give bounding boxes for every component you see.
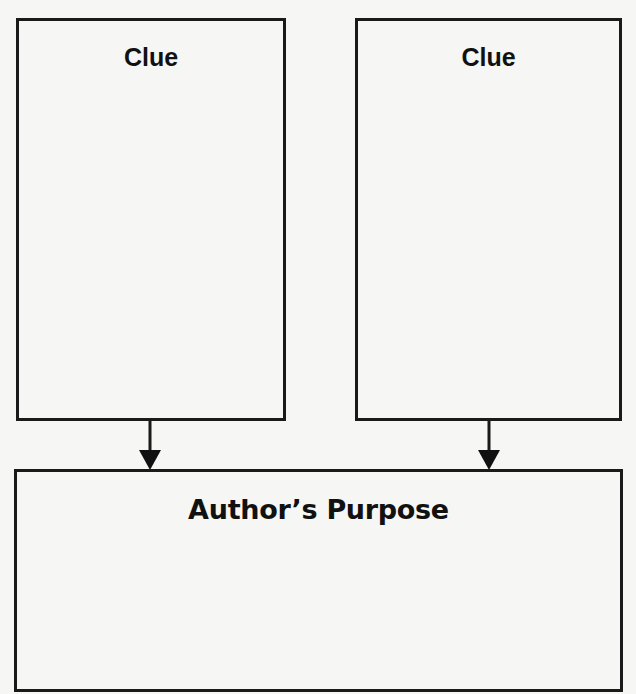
clue-box-1-content[interactable] xyxy=(31,91,271,406)
clue-box-2-title: Clue xyxy=(358,43,619,72)
clue-box-1-title: Clue xyxy=(19,43,283,72)
clue-box-2-content[interactable] xyxy=(370,91,607,406)
arrow-down-icon xyxy=(138,420,162,470)
author-purpose-content[interactable] xyxy=(29,542,608,677)
arrow-down-icon xyxy=(477,420,501,470)
author-purpose-title: Author’s Purpose xyxy=(17,494,620,525)
author-purpose-graphic-organizer: { "organizer": { "clue_boxes": [ { "labe… xyxy=(0,0,636,694)
clue-box-2[interactable]: Clue xyxy=(355,18,622,421)
clue-box-1[interactable]: Clue xyxy=(16,18,286,421)
author-purpose-box[interactable]: Author’s Purpose xyxy=(14,469,623,692)
